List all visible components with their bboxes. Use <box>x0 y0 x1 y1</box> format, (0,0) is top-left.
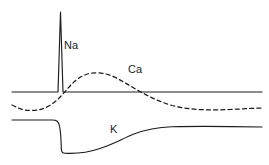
trace-plot-area <box>0 0 269 165</box>
plot-background <box>0 0 269 165</box>
k-curve-label: K <box>110 124 117 135</box>
ca-curve-label: Ca <box>128 64 142 75</box>
ion-conductance-figure: Na Ca K <box>0 0 269 165</box>
na-curve-label: Na <box>64 40 78 51</box>
